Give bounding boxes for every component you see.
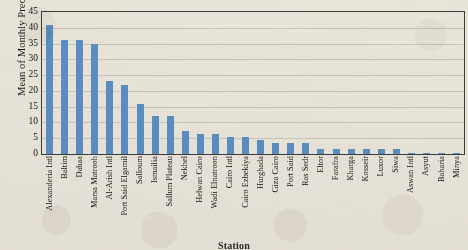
bar <box>121 85 128 154</box>
bar <box>61 40 68 154</box>
y-tick-label: 25 <box>29 70 39 80</box>
bar <box>287 143 294 154</box>
x-tick-label: Salloum <box>136 156 144 184</box>
bar-slot <box>223 12 238 154</box>
x-tick-slot: Nekhel <box>178 156 193 236</box>
x-tick-label: Port Said <box>287 156 295 187</box>
bar <box>212 134 219 154</box>
bar <box>91 44 98 154</box>
x-tick-slot: Al-Arish Intl <box>102 156 117 236</box>
x-tick-label: Luxor <box>377 156 385 176</box>
x-tick-slot: Baltim <box>57 156 72 236</box>
x-tick-label: Al-Arish Intl <box>106 156 114 200</box>
bar <box>438 153 445 154</box>
x-tick-slot: Alexanderia Intl <box>42 156 57 236</box>
bar-slot <box>298 12 313 154</box>
x-tick-slot: Aswan Intl <box>404 156 419 236</box>
bar-slot <box>283 12 298 154</box>
x-tick-slot: Farafra <box>328 156 343 236</box>
x-tick-label: Nekhel <box>181 156 189 180</box>
bar-slot <box>389 12 404 154</box>
bar <box>197 134 204 154</box>
x-tick-label: Wadi Elnatroon <box>211 156 219 209</box>
bar-slot <box>344 12 359 154</box>
y-tick-label: 0 <box>33 149 38 159</box>
y-tick-label: 45 <box>29 7 39 17</box>
x-tick-slot: Port Said <box>283 156 298 236</box>
x-tick-slot: Giza Cairo <box>268 156 283 236</box>
bar-slot <box>178 12 193 154</box>
bar <box>393 149 400 154</box>
bar <box>167 116 174 154</box>
x-tick-label: Baharia <box>437 156 445 182</box>
x-tick-label: Port Said Elgamil <box>121 156 129 216</box>
x-tick-slot: Marsa Matrooh <box>87 156 102 236</box>
x-tick-slot: Wadi Elnatroon <box>208 156 223 236</box>
bar-slot <box>193 12 208 154</box>
bar <box>182 131 189 154</box>
y-axis-tick-labels: 051015202530354045 <box>16 11 38 155</box>
x-tick-label: Siwa <box>392 156 400 173</box>
bar <box>242 137 249 154</box>
x-tick-slot: Cairo Ezbekiya <box>238 156 253 236</box>
bar-slot <box>419 12 434 154</box>
bar-slot <box>208 12 223 154</box>
bar <box>302 143 309 154</box>
x-tick-slot: Ras Sedr <box>298 156 313 236</box>
x-tick-label: Sallum Plateau <box>166 156 174 206</box>
x-tick-label: Helwan Cairo <box>196 156 204 203</box>
bar-slot <box>72 12 87 154</box>
bar-slot <box>434 12 449 154</box>
x-tick-slot: Minya <box>449 156 464 236</box>
y-tick-label: 5 <box>33 133 38 143</box>
y-tick-label: 40 <box>29 23 39 33</box>
x-tick-label: Kosseir <box>362 156 370 182</box>
x-tick-slot: Asyut <box>419 156 434 236</box>
bar <box>333 149 340 154</box>
bar <box>106 81 113 154</box>
x-tick-slot: Baharia <box>434 156 449 236</box>
x-tick-slot: Port Said Elgamil <box>117 156 132 236</box>
x-tick-label: Farafra <box>332 156 340 180</box>
x-tick-slot: Dabaa <box>72 156 87 236</box>
x-tick-label: Eltor <box>317 156 325 173</box>
bar <box>408 153 415 154</box>
bar <box>272 143 279 154</box>
x-tick-label: Baltim <box>60 156 68 179</box>
x-tick-slot: Kosseir <box>359 156 374 236</box>
bar <box>363 149 370 154</box>
y-tick-label: 15 <box>29 102 39 112</box>
y-tick-label: 10 <box>29 118 39 128</box>
bar-series <box>42 12 464 154</box>
bar <box>378 149 385 154</box>
bar-slot <box>42 12 57 154</box>
x-tick-label: Ismailia <box>151 156 159 183</box>
x-tick-slot: Salloum <box>132 156 147 236</box>
bar-slot <box>102 12 117 154</box>
bar-slot <box>238 12 253 154</box>
x-tick-label: Ras Sedr <box>302 156 310 186</box>
y-tick-label: 20 <box>29 86 39 96</box>
x-tick-slot: Helwan Cairo <box>193 156 208 236</box>
bar-slot <box>374 12 389 154</box>
x-tick-label: Dabaa <box>75 156 83 177</box>
bar <box>152 116 159 154</box>
x-tick-slot: Kharga <box>344 156 359 236</box>
bar-slot <box>87 12 102 154</box>
bar <box>46 25 53 154</box>
bar-slot <box>57 12 72 154</box>
y-tick-label: 35 <box>29 39 39 49</box>
bar <box>227 137 234 154</box>
bar-slot <box>163 12 178 154</box>
x-tick-label: Giza Cairo <box>272 156 280 193</box>
y-tick-label: 30 <box>29 55 39 65</box>
bar-slot <box>117 12 132 154</box>
x-tick-label: Kharga <box>347 156 355 181</box>
x-tick-label: Asyut <box>422 156 430 176</box>
bar-slot <box>359 12 374 154</box>
x-tick-label: Cairo Intl <box>226 156 234 188</box>
bar-slot <box>253 12 268 154</box>
bar-slot <box>148 12 163 154</box>
bar-slot <box>328 12 343 154</box>
bar-chart-figure: Mean of Monthly Precipitation (mm) 05101… <box>0 0 468 250</box>
